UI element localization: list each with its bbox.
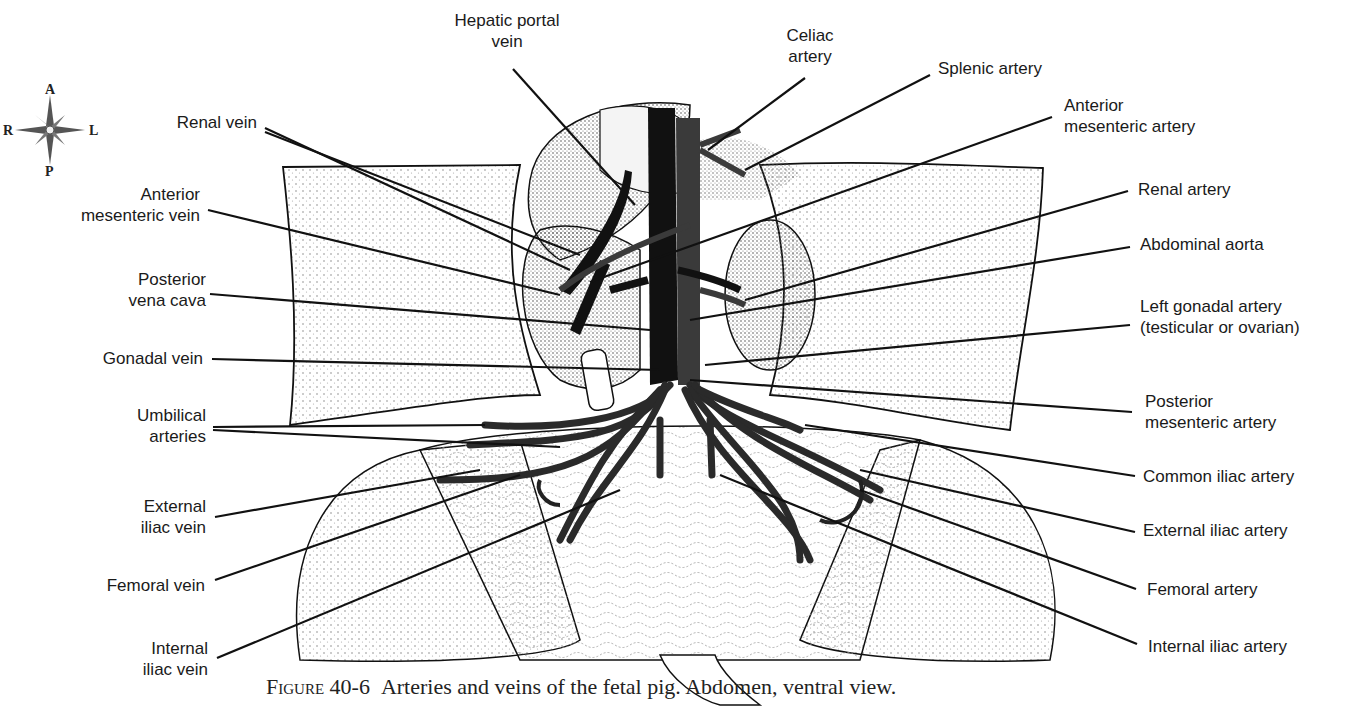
compass-left: L — [89, 123, 98, 139]
label-abdominal-aorta: Abdominal aorta — [1140, 234, 1264, 255]
label-left-gonadal-artery: Left gonadal artery (testicular or ovari… — [1140, 296, 1300, 338]
label-external-iliac-vein: External iliac vein — [141, 496, 206, 538]
label-gonadal-vein: Gonadal vein — [103, 348, 203, 369]
label-renal-vein: Renal vein — [177, 112, 257, 133]
label-internal-iliac-artery: Internal iliac artery — [1148, 636, 1287, 657]
label-femoral-artery: Femoral artery — [1147, 579, 1258, 600]
figure-number: Figure 40-6 — [266, 674, 370, 699]
figure-caption: Figure 40-6 Arteries and veins of the fe… — [266, 674, 896, 700]
label-common-iliac-artery: Common iliac artery — [1143, 466, 1294, 487]
figure-caption-text: Arteries and veins of the fetal pig. Abd… — [381, 674, 896, 699]
label-renal-artery: Renal artery — [1138, 179, 1231, 200]
diagram-stage: A P R L Renal vein Anterior mesenteric v… — [0, 0, 1346, 713]
label-femoral-vein: Femoral vein — [107, 575, 205, 596]
label-anterior-mesenteric-artery: Anterior mesenteric artery — [1064, 95, 1195, 137]
label-hepatic-portal-vein: Hepatic portal vein — [432, 10, 582, 52]
compass-anterior: A — [45, 82, 55, 98]
compass-right: R — [3, 123, 13, 139]
label-umbilical-arteries: Umbilical arteries — [137, 405, 206, 447]
compass-rose — [15, 95, 85, 165]
label-external-iliac-artery: External iliac artery — [1143, 520, 1288, 541]
label-splenic-artery: Splenic artery — [938, 58, 1042, 79]
compass-posterior: P — [45, 164, 54, 180]
label-internal-iliac-vein: Internal iliac vein — [143, 638, 208, 680]
label-anterior-mesenteric-vein: Anterior mesenteric vein — [81, 184, 200, 226]
label-posterior-vena-cava: Posterior vena cava — [129, 269, 207, 311]
label-posterior-mesenteric-artery: Posterior mesenteric artery — [1145, 391, 1276, 433]
label-celiac-artery: Celiac artery — [775, 25, 845, 67]
